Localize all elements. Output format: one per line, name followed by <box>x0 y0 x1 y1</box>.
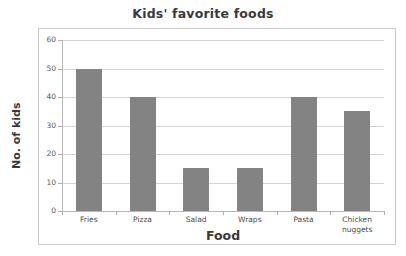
gridline <box>62 183 384 184</box>
x-tick-label-line: Wraps <box>220 215 280 225</box>
y-tick-label: 20 <box>34 150 56 158</box>
x-tick-label-line: Pasta <box>274 215 334 225</box>
x-tick-label-line: nuggets <box>327 225 387 235</box>
x-tick-mark <box>169 211 170 215</box>
gridline <box>62 97 384 98</box>
bar[interactable] <box>76 69 102 212</box>
plot-area <box>62 40 384 211</box>
x-tick-label-line: Fries <box>59 215 119 225</box>
x-tick-label-line: Salad <box>166 215 226 225</box>
bar[interactable] <box>130 97 156 211</box>
y-tick-label: 0 <box>34 207 56 215</box>
gridline <box>62 126 384 127</box>
y-tick-label: 10 <box>34 179 56 187</box>
x-tick-label: Salad <box>166 215 226 225</box>
x-tick-label-line: Pizza <box>113 215 173 225</box>
y-tick-label: 30 <box>34 122 56 130</box>
x-tick-label: Pizza <box>113 215 173 225</box>
y-tick-label: 40 <box>34 93 56 101</box>
x-tick-label: Pasta <box>274 215 334 225</box>
x-tick-mark <box>223 211 224 215</box>
x-tick-label-line: Chicken <box>327 215 387 225</box>
gridline <box>62 69 384 70</box>
bar[interactable] <box>291 97 317 211</box>
y-tick-mark <box>58 69 62 70</box>
y-axis-line <box>62 40 63 212</box>
x-tick-label: Fries <box>59 215 119 225</box>
bar[interactable] <box>344 111 370 211</box>
y-tick-mark <box>58 97 62 98</box>
x-tick-mark <box>277 211 278 215</box>
y-tick-mark <box>58 154 62 155</box>
x-tick-mark <box>384 211 385 215</box>
gridline <box>62 154 384 155</box>
y-tick-mark <box>58 40 62 41</box>
bar[interactable] <box>237 168 263 211</box>
x-tick-label: Wraps <box>220 215 280 225</box>
y-tick-label: 60 <box>34 36 56 44</box>
x-tick-mark <box>330 211 331 215</box>
bar[interactable] <box>183 168 209 211</box>
y-tick-mark <box>58 126 62 127</box>
gridline <box>62 40 384 41</box>
x-tick-mark <box>62 211 63 215</box>
y-axis-title: No. of kids <box>6 86 28 186</box>
y-tick-label: 50 <box>34 65 56 73</box>
x-tick-mark <box>116 211 117 215</box>
y-tick-mark <box>58 183 62 184</box>
x-tick-label: Chickennuggets <box>327 215 387 235</box>
chart-title: Kids' favorite foods <box>0 6 406 21</box>
